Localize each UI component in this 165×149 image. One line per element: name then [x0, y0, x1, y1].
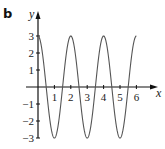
y-tick-label: −2 — [22, 115, 34, 127]
y-axis-label: y — [28, 7, 35, 21]
tick-labels: 123456321−1−2−3xy — [22, 7, 162, 144]
x-tick-label: 4 — [101, 91, 107, 103]
y-tick-label: −1 — [22, 98, 34, 110]
x-tick-label: 3 — [84, 91, 90, 103]
x-tick-label: 2 — [68, 91, 74, 103]
y-tick-label: −3 — [22, 132, 34, 144]
y-tick-label: 1 — [29, 64, 35, 76]
x-tick-label: 6 — [134, 91, 140, 103]
y-tick-label: 2 — [29, 47, 35, 59]
x-tick-label: 5 — [117, 91, 123, 103]
cosine-plot: 123456321−1−2−3xy — [0, 0, 165, 149]
x-axis-label: x — [155, 86, 162, 100]
y-tick-label: 3 — [29, 30, 35, 42]
y-axis-arrow-icon — [36, 11, 41, 19]
x-tick-label: 1 — [52, 91, 58, 103]
